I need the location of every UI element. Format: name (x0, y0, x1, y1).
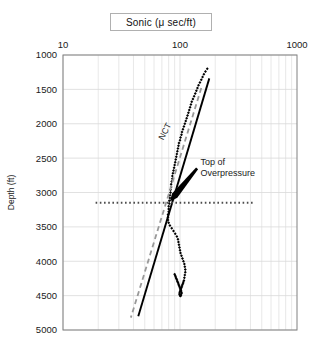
nct-label: NCT (156, 121, 173, 141)
data-point (178, 246, 181, 249)
chart-title: Sonic (μ sec/ft) (126, 17, 196, 28)
data-point (176, 147, 179, 150)
data-point (187, 111, 190, 114)
data-point (173, 164, 176, 167)
data-point (176, 150, 179, 153)
data-point (185, 117, 188, 120)
chart-title-box: Sonic (μ sec/ft) (110, 13, 212, 31)
top-of-overpressure-line2: Overpressure (201, 168, 256, 178)
data-point (175, 235, 178, 238)
x-tick-label: 100 (172, 39, 188, 50)
top-of-overpressure-line1: Top of (201, 157, 226, 167)
data-point (193, 95, 196, 98)
data-point (183, 276, 186, 279)
data-point (179, 252, 182, 255)
data-point (169, 191, 172, 194)
data-point (200, 78, 203, 81)
data-point (190, 100, 193, 103)
data-point (179, 249, 182, 252)
chart-svg: 1010010001000150020002500300035004000450… (0, 0, 314, 350)
data-point (181, 257, 184, 260)
data-point (182, 260, 185, 263)
y-tick-label: 1000 (36, 49, 57, 60)
data-point (170, 183, 173, 186)
data-point (198, 81, 201, 84)
data-point (182, 128, 185, 131)
data-point (171, 175, 174, 178)
chart-root: Sonic (μ sec/ft) 10100100010001500200025… (0, 0, 314, 350)
data-point (167, 205, 170, 208)
y-tick-label: 3000 (36, 187, 57, 198)
data-point (180, 254, 183, 257)
data-point (201, 76, 204, 79)
data-point (194, 92, 197, 95)
data-point (177, 144, 180, 147)
y-tick-label: 5000 (36, 324, 57, 335)
data-point (183, 263, 186, 266)
data-point (181, 131, 184, 134)
data-point (188, 109, 191, 112)
data-point (173, 166, 176, 169)
data-point (177, 241, 180, 244)
x-tick-label: 1000 (286, 39, 307, 50)
data-point (183, 265, 186, 268)
data-point (174, 232, 177, 235)
data-point (204, 70, 207, 73)
data-point (183, 122, 186, 125)
data-point (174, 161, 177, 164)
data-point (197, 84, 200, 87)
data-point (182, 125, 185, 128)
data-point (202, 73, 205, 76)
data-point (186, 114, 189, 117)
data-point (184, 268, 187, 271)
data-point (184, 271, 187, 274)
data-point (176, 238, 179, 241)
data-point (189, 103, 192, 106)
y-tick-label: 4500 (36, 290, 57, 301)
data-point (184, 120, 187, 123)
data-point (189, 106, 192, 109)
data-point (183, 274, 186, 277)
data-point (179, 139, 182, 142)
data-point (167, 221, 170, 224)
x-tick-label: 10 (58, 39, 69, 50)
y-axis-title: Depth (ft) (6, 175, 16, 211)
y-tick-label: 4000 (36, 256, 57, 267)
data-point (191, 98, 194, 101)
data-point (180, 133, 183, 136)
y-tick-label: 3500 (36, 221, 57, 232)
data-point (171, 172, 174, 175)
y-tick-label: 2500 (36, 153, 57, 164)
y-tick-label: 1500 (36, 84, 57, 95)
top-of-overpressure-arrow (170, 168, 198, 202)
data-point (175, 153, 178, 156)
data-point (179, 136, 182, 139)
data-point (206, 67, 209, 70)
y-tick-label: 2000 (36, 118, 57, 129)
